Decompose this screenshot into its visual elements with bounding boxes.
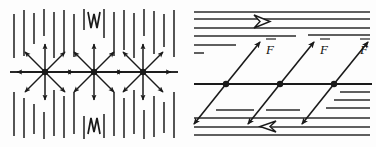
bottom-chevron-mark: [88, 118, 100, 134]
node-hub: [140, 69, 146, 75]
force-label-3-text: F: [359, 42, 369, 57]
shear-force-panel: F F F: [188, 0, 376, 147]
node-hub: [91, 69, 97, 75]
physics-figure: F F F: [0, 0, 376, 147]
vector-origin-dot: [277, 81, 283, 87]
top-boundary-arrow: [254, 15, 270, 28]
force-label-1-text: F: [265, 42, 275, 57]
shear-force-svg: F F F: [188, 0, 376, 147]
hatch-field-bottom: [194, 92, 370, 135]
vector-origin-dot: [223, 81, 229, 87]
vector-origin-dot: [331, 81, 337, 87]
hatch-field-top: [194, 12, 370, 53]
force-label-3: F: [359, 39, 370, 57]
force-label-2-text: F: [319, 42, 329, 57]
radial-force-svg: [0, 0, 188, 147]
radial-force-panel: [0, 0, 188, 147]
node-hub: [42, 69, 48, 75]
force-label-2: F: [319, 39, 330, 57]
top-chevron-mark: [88, 12, 100, 28]
force-label-1: F: [265, 39, 276, 57]
